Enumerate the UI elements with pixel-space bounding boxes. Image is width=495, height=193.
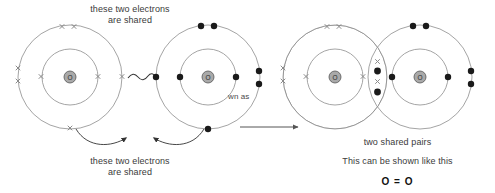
caption-shown-as: wn as bbox=[228, 92, 268, 103]
electron-dot bbox=[374, 89, 381, 96]
caption-two-shared-pairs: two shared pairs bbox=[300, 137, 495, 148]
left-electron-arrow bbox=[76, 129, 126, 145]
caption-shown-like-this: This can be shown like this bbox=[300, 156, 495, 167]
atom-left-a: O bbox=[16, 25, 124, 131]
nucleus-symbol: O bbox=[417, 74, 422, 81]
electron-pairing-squiggle bbox=[128, 74, 156, 80]
electron-dot bbox=[374, 68, 381, 75]
electron-dot bbox=[256, 81, 262, 87]
caption-bottom-line2: are shared bbox=[70, 167, 190, 178]
caption-bottom-line1: these two electrons bbox=[70, 156, 190, 167]
atom-left-b: O bbox=[153, 23, 262, 132]
caption-top-line1: these two electrons bbox=[0, 4, 260, 15]
electron-dot bbox=[410, 23, 416, 29]
electron-dot bbox=[256, 68, 262, 74]
right-group-bonded-molecule: O O bbox=[281, 23, 474, 129]
nucleus-symbol: O bbox=[205, 74, 210, 81]
electron-cross bbox=[60, 25, 64, 29]
electron-dot bbox=[177, 74, 183, 80]
electron-dot bbox=[468, 81, 474, 87]
nucleus-symbol: O bbox=[332, 74, 337, 81]
electron-cross bbox=[325, 25, 329, 29]
cross-electrons bbox=[281, 25, 365, 84]
caption-bottom: these two electrons are shared bbox=[70, 156, 190, 177]
formula-oxygen-double-bond: O = O bbox=[300, 177, 495, 188]
nucleus-symbol: O bbox=[67, 74, 72, 81]
electron-dot bbox=[389, 74, 395, 80]
electron-dot bbox=[445, 74, 451, 80]
left-group-separate-atoms: O bbox=[16, 23, 262, 145]
caption-top-line2: are shared bbox=[0, 15, 260, 26]
electron-dot bbox=[233, 74, 239, 80]
electron-dot bbox=[468, 68, 474, 74]
electron-dot bbox=[423, 23, 429, 29]
shared-pair-region bbox=[283, 25, 472, 129]
electron-dot bbox=[205, 126, 211, 132]
dot-electrons bbox=[389, 23, 474, 87]
caption-top: these two electrons are shared bbox=[0, 4, 260, 25]
electron-cross bbox=[16, 66, 20, 70]
oxygen-bonding-diagram: O bbox=[0, 0, 495, 193]
electron-dot-bonding bbox=[153, 74, 159, 80]
right-electron-arrow bbox=[154, 129, 204, 145]
